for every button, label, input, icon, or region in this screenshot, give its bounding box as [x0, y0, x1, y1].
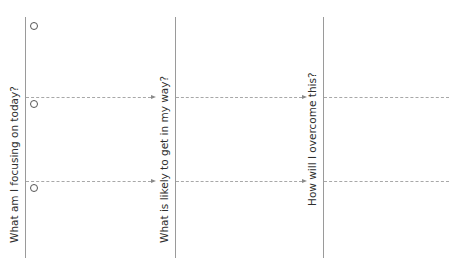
column-divider-3	[323, 17, 324, 258]
column-label-overcome: How will I overcome this?	[306, 73, 318, 207]
arrow-right-icon	[151, 179, 156, 183]
row-1-connector-1	[26, 97, 151, 98]
arrow-right-icon	[302, 95, 307, 99]
row-1-connector-3	[324, 97, 449, 98]
row-2-connector-1	[26, 181, 151, 182]
row-marker-circle-3[interactable]	[30, 184, 38, 192]
arrow-right-icon	[302, 179, 307, 183]
column-label-obstacles: What is likely to get in my way?	[158, 76, 170, 243]
row-marker-circle-2[interactable]	[30, 100, 38, 108]
arrow-right-icon	[151, 95, 156, 99]
row-2-connector-3	[324, 181, 449, 182]
row-marker-circle-1[interactable]	[30, 22, 38, 30]
column-label-focus: What am I focusing on today?	[8, 86, 20, 243]
row-1-connector-2	[176, 97, 302, 98]
row-2-connector-2	[176, 181, 302, 182]
column-divider-2	[175, 17, 176, 258]
column-divider-1	[25, 17, 26, 258]
